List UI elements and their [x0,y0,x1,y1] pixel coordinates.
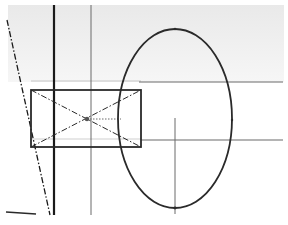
ground-line [6,212,36,214]
center-point [85,117,90,122]
shaded-band [8,5,284,82]
ellipse-top-mark [174,28,176,30]
ellipse-right-mark [231,119,233,121]
technical-drawing [0,0,288,225]
ellipse-bottom-mark [174,207,177,210]
